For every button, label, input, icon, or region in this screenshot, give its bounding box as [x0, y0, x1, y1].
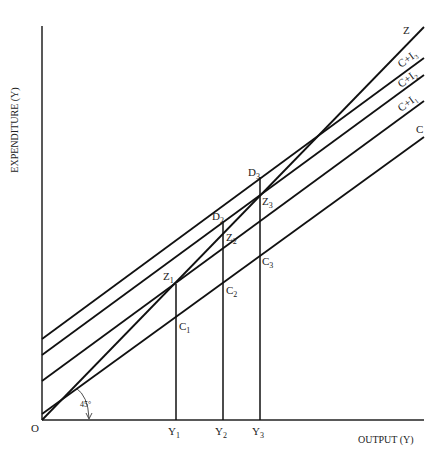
point-label: D3: [248, 166, 260, 181]
line-c-plus-i2: [42, 75, 424, 355]
point-label: D2: [212, 210, 224, 225]
point-label: Z1: [163, 270, 174, 285]
y-axis-label: EXPENDITURE (Y): [9, 87, 21, 172]
point-label: Z3: [262, 195, 273, 210]
line-label: C: [416, 123, 423, 135]
x-tick-label: Y2: [215, 425, 227, 440]
line-label: C+I₃: [395, 47, 419, 69]
point-label: C1: [179, 320, 190, 335]
line-c: [42, 137, 424, 414]
line-label: Z: [403, 24, 410, 36]
x-tick-label: Y3: [252, 425, 264, 440]
point-label: C2: [226, 284, 237, 299]
schedule-lines: ZC+I₃C+I₂C+I₁C: [42, 24, 424, 420]
point-label: C3: [262, 255, 273, 270]
point-label: Z2: [226, 231, 237, 246]
line-label: C+I₁: [395, 91, 419, 113]
origin-label: O: [31, 422, 39, 434]
x-tick-label: Y1: [168, 425, 180, 440]
line-z: [42, 27, 424, 420]
keynesian-cross-diagram: ZC+I₃C+I₂C+I₁C EXPENDITURE (Y) OUTPUT (Y…: [0, 0, 444, 463]
x-axis-label: OUTPUT (Y): [358, 434, 414, 446]
